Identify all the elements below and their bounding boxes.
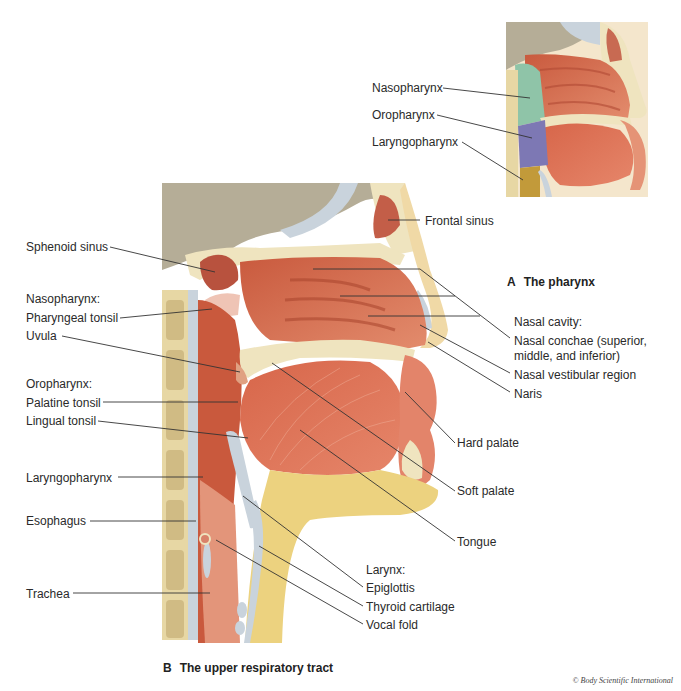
label-vocal-fold: Vocal fold bbox=[366, 618, 418, 632]
label-soft-palate: Soft palate bbox=[457, 484, 514, 498]
label-laryngopharynx-a: Laryngopharynx bbox=[372, 135, 458, 149]
label-thyroid-cartilage: Thyroid cartilage bbox=[366, 600, 455, 614]
label-nasal-conchae-line2: middle, and inferior) bbox=[514, 349, 620, 363]
label-nasopharynx-a: Nasopharynx bbox=[372, 81, 443, 95]
caption-figure-a: AThe pharynx bbox=[507, 275, 595, 289]
caption-letter-b: B bbox=[163, 661, 172, 675]
label-lingual-tonsil: Lingual tonsil bbox=[26, 414, 96, 428]
label-larynx-heading: Larynx: bbox=[366, 563, 405, 577]
label-oropharynx-heading: Oropharynx: bbox=[26, 377, 92, 391]
label-uvula: Uvula bbox=[26, 329, 57, 343]
copyright-credit: © Body Scientific International bbox=[573, 676, 674, 685]
caption-text-b: The upper respiratory tract bbox=[180, 661, 333, 675]
label-palatine-tonsil: Palatine tonsil bbox=[26, 396, 101, 410]
label-nasal-conchae-line1: Nasal conchae (superior, bbox=[514, 334, 647, 348]
label-nasopharynx-heading: Nasopharynx: bbox=[26, 292, 100, 306]
label-nasal-cavity-heading: Nasal cavity: bbox=[514, 315, 582, 329]
label-nasal-vestibular-region: Nasal vestibular region bbox=[514, 368, 636, 382]
figure-a-pharynx bbox=[506, 22, 648, 197]
label-oropharynx-a: Oropharynx bbox=[372, 108, 435, 122]
label-pharyngeal-tonsil: Pharyngeal tonsil bbox=[26, 311, 118, 325]
label-trachea: Trachea bbox=[26, 587, 70, 601]
caption-figure-b: BThe upper respiratory tract bbox=[163, 661, 333, 675]
label-esophagus: Esophagus bbox=[26, 514, 86, 528]
label-sphenoid-sinus: Sphenoid sinus bbox=[26, 240, 108, 254]
label-naris: Naris bbox=[514, 387, 542, 401]
label-laryngopharynx-b: Laryngopharynx bbox=[26, 471, 112, 485]
label-epiglottis: Epiglottis bbox=[366, 581, 415, 595]
label-tongue: Tongue bbox=[457, 535, 496, 549]
caption-letter-a: A bbox=[507, 275, 516, 289]
label-frontal-sinus: Frontal sinus bbox=[425, 214, 494, 228]
caption-text-a: The pharynx bbox=[524, 275, 595, 289]
label-hard-palate: Hard palate bbox=[457, 436, 519, 450]
